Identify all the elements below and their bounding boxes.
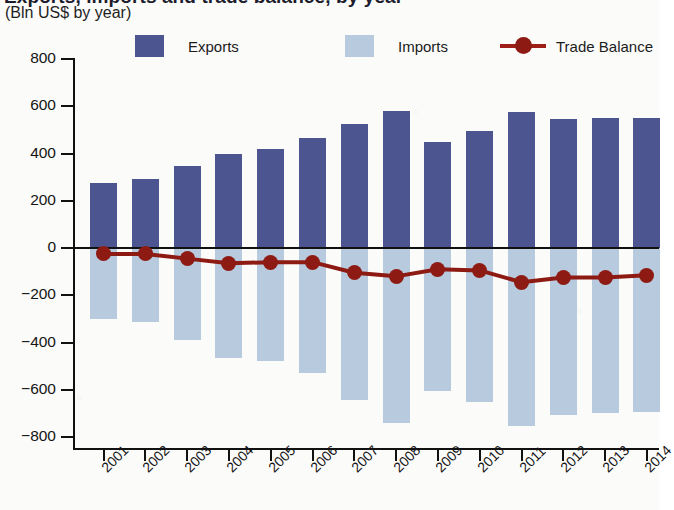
trade-balance-point (389, 269, 404, 284)
trade-balance-point (556, 270, 571, 285)
trade-balance-point (598, 270, 613, 285)
trade-balance-point (305, 255, 320, 270)
trade-balance-point (347, 265, 362, 280)
trade-balance-point (180, 251, 195, 266)
trade-balance-point (263, 255, 278, 270)
trade-balance-point (639, 268, 654, 283)
trade-balance-point (514, 275, 529, 290)
